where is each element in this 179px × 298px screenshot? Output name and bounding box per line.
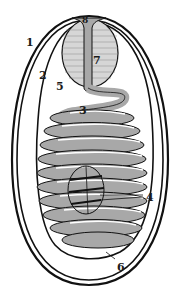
label-5: 5 — [56, 81, 64, 92]
label-2: 2 — [39, 70, 47, 81]
label-8: 8 — [82, 16, 88, 25]
label-6: 6 — [117, 262, 125, 273]
label-3: 3 — [79, 105, 87, 116]
label-1: 1 — [26, 37, 34, 48]
label-4: 4 — [146, 192, 154, 203]
label-7: 7 — [93, 55, 101, 66]
